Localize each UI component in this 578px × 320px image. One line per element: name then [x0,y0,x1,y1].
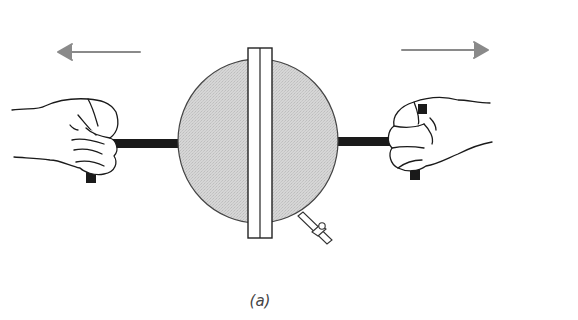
figure-label: (a) [0,292,520,310]
right-arrow-icon [402,42,488,58]
magdeburg-hemispheres-diagram [0,0,578,320]
left-hand [12,99,118,183]
stopcock-valve [298,212,332,244]
left-arrow-icon [58,44,140,60]
flange-ring [248,48,272,238]
right-hand [388,98,492,180]
